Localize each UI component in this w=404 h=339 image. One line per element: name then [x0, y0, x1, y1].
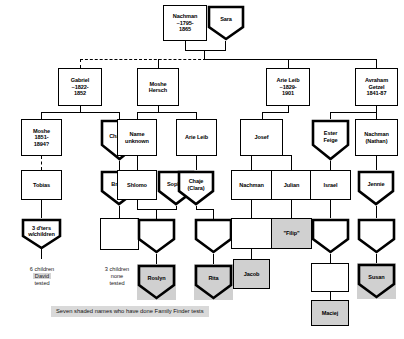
connector-gen2-sibling-dashed: [80, 59, 206, 60]
person-jennie[interactable]: Jennie: [357, 170, 395, 206]
connector-jennie-child: [376, 206, 377, 218]
person-filip[interactable]: "Filip": [271, 218, 312, 249]
connector-chanzie-brane: [119, 161, 120, 170]
person-name: Ester: [324, 130, 338, 136]
person-susan[interactable]: Susan: [357, 263, 396, 299]
person-name: Moshe: [149, 81, 166, 87]
person-name-line2: Getzel: [368, 84, 384, 90]
person-blank-jennie-child[interactable]: [357, 218, 396, 254]
person-name-unknown[interactable]: Name unknown: [117, 119, 157, 156]
person-blank-maciej-parent[interactable]: [311, 263, 349, 292]
person-moshe-hersch[interactable]: Moshe Hersch: [137, 68, 179, 106]
person-dates: 1841-87: [367, 90, 387, 96]
person-moshe-1851[interactable]: Moshe 1851- 1894?: [21, 119, 62, 156]
connector-esterfeige-israel: [330, 161, 331, 170]
connector-threedters-down: [41, 249, 42, 259]
person-shlomo[interactable]: Shlomo: [117, 170, 157, 200]
legend-shaded-names: Seven shaded names who have done Family …: [51, 306, 209, 317]
person-rita[interactable]: Rita: [194, 264, 233, 300]
person-avraham-getzel[interactable]: Avraham Getzel 1841-87: [355, 68, 398, 106]
person-name: Arie Leib: [185, 134, 208, 140]
person-name: Arie Leib: [276, 77, 299, 83]
person-name-line2: unknown: [125, 138, 149, 144]
connector-arieleib1-children: [262, 112, 289, 113]
person-dates-line1: 1851-: [35, 134, 49, 140]
connector-maciej-up: [330, 291, 331, 300]
connector-chanzie-up: [119, 112, 120, 119]
connector-arieleib2-up: [196, 112, 197, 119]
person-arie-leib-2[interactable]: Arie Leib: [176, 119, 217, 156]
connector-rita-up: [213, 254, 214, 264]
connector-arieleib-up: [288, 59, 289, 68]
person-jacob[interactable]: Jacob: [233, 259, 270, 289]
person-dates-line2: 1894?: [34, 141, 49, 147]
connector-moshe-tobias-dashed: [41, 156, 42, 170]
person-detail: w/children: [28, 231, 55, 237]
person-name: Nachman: [364, 131, 388, 137]
connector-nachman3-child: [251, 200, 252, 218]
person-chaje-clara[interactable]: Chaje (Clara): [177, 170, 215, 206]
person-dates-line2: 1852: [74, 90, 86, 96]
connector-tobias-threedters: [41, 200, 42, 218]
connector-gabriel-up-dashed: [80, 59, 81, 68]
connector-roslyn-up: [156, 254, 157, 264]
person-dates-line1: ~1795-: [177, 20, 194, 26]
connector-avraham-up: [376, 59, 377, 68]
person-josef[interactable]: Josef: [240, 119, 283, 156]
person-blank-nachman3-child[interactable]: [231, 218, 272, 249]
person-israel[interactable]: Israel: [310, 170, 351, 200]
connector-jacob-up: [251, 249, 252, 259]
connector-nachman2-jennie: [376, 156, 377, 170]
person-name: Gabriel: [71, 77, 90, 83]
connector-nachman2-up: [376, 112, 377, 119]
connector-chaje-across: [196, 209, 214, 210]
connector-moshehersch-up: [158, 59, 159, 68]
annotation-three-children: 3 children none tested: [83, 266, 151, 287]
person-arie-leib-1829[interactable]: Arie Leib ~1829- 1901: [266, 68, 310, 106]
connector-esterfeige-up: [330, 112, 331, 119]
connector-susan-up: [376, 254, 377, 263]
person-dates-line2: 1865: [179, 26, 191, 32]
person-julian[interactable]: Julian: [271, 170, 312, 200]
person-blank-brane-child[interactable]: [100, 218, 139, 250]
person-name: Nachman: [173, 13, 197, 19]
connector-israel-child: [330, 200, 331, 218]
person-tobias[interactable]: Tobias: [21, 170, 62, 200]
person-name: Moshe: [33, 128, 50, 134]
connector-josef-up: [262, 112, 263, 119]
annotation-six-children: 6 children David tested: [8, 266, 76, 287]
person-nachman-1795[interactable]: Nachman ~1795- 1865: [163, 5, 207, 41]
connector-josef-nachman3: [251, 156, 252, 170]
person-blank-chaje-child[interactable]: [194, 218, 233, 254]
person-name: Shlomo: [127, 182, 147, 188]
connector-nameunknown-up: [137, 112, 138, 119]
person-name: Tobias: [33, 182, 50, 188]
person-alias: (Clara): [187, 185, 204, 191]
connector-avraham-children: [330, 112, 377, 113]
person-sara[interactable]: Sara: [207, 5, 245, 41]
connector-arieleib2-chaje: [196, 156, 197, 170]
person-name: Julian: [284, 182, 300, 188]
annotation-line1: 6 children: [30, 266, 54, 272]
person-blank-israel-child[interactable]: [311, 218, 350, 254]
person-name: Name: [130, 131, 145, 137]
annotation-line3: tested: [109, 280, 124, 286]
person-nachman-3[interactable]: Nachman: [231, 170, 272, 200]
person-dates-line1: ~1822-: [72, 84, 89, 90]
legend-text: Seven shaded names who have done Family …: [56, 308, 204, 314]
person-name: Avraham: [365, 77, 388, 83]
connector-moshehersch-children: [137, 112, 197, 113]
person-name: Jacob: [244, 271, 260, 277]
person-ester-feige[interactable]: Ester Feige: [311, 119, 350, 161]
connector-moshe-up: [41, 112, 42, 119]
person-nachman-nathan[interactable]: Nachman (Nathan): [355, 119, 398, 156]
person-maciej[interactable]: Maciej: [311, 300, 349, 326]
person-gabriel[interactable]: Gabriel ~1822- 1852: [58, 68, 102, 106]
person-name: Chaje: [189, 178, 204, 184]
person-blank-shlomo-child[interactable]: [137, 218, 176, 254]
person-name: Rita: [208, 275, 218, 281]
connector-gabriel-children: [41, 112, 120, 113]
person-three-daughters[interactable]: 3 d'ters w/children: [21, 218, 62, 250]
connector-mblank2-up: [330, 254, 331, 263]
person-name-line2: Hersch: [149, 87, 167, 93]
